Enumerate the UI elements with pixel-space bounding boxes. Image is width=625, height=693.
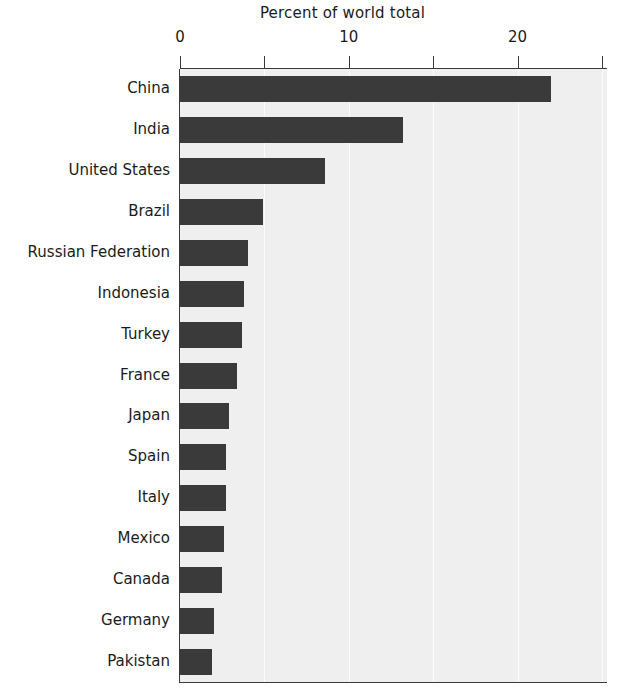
category-label-united-states: United States	[0, 161, 170, 179]
x-axis-tick-label-10: 10	[339, 28, 358, 46]
bar-united-states	[180, 158, 325, 184]
category-label-mexico: Mexico	[0, 529, 170, 547]
bar-spain	[180, 444, 226, 470]
bar-japan	[180, 403, 229, 429]
gridline-25	[602, 69, 603, 682]
gridline-10	[349, 69, 350, 682]
category-label-turkey: Turkey	[0, 325, 170, 343]
category-label-india: India	[0, 120, 170, 138]
bar-mexico	[180, 526, 224, 552]
x-axis-tick-0	[180, 56, 181, 68]
category-label-pakistan: Pakistan	[0, 652, 170, 670]
gridline-15	[433, 69, 434, 682]
bar-india	[180, 117, 403, 143]
bar-russian-federation	[180, 240, 248, 266]
bar-turkey	[180, 322, 242, 348]
bar-chart: Percent of world total 01020 ChinaIndiaU…	[0, 0, 625, 693]
x-axis-tick-label-20: 20	[508, 28, 527, 46]
bar-pakistan	[180, 649, 212, 675]
bar-italy	[180, 485, 226, 511]
x-axis-tick-10	[349, 56, 350, 68]
gridline-20	[518, 69, 519, 682]
category-label-canada: Canada	[0, 570, 170, 588]
bar-brazil	[180, 199, 263, 225]
bar-germany	[180, 608, 214, 634]
category-label-germany: Germany	[0, 611, 170, 629]
plot-bottom-border	[179, 682, 607, 683]
category-label-china: China	[0, 79, 170, 97]
bar-indonesia	[180, 281, 244, 307]
x-axis-tick-15	[433, 56, 434, 68]
x-axis-tick-25	[602, 56, 603, 68]
x-axis-tick-label-0: 0	[175, 28, 185, 46]
category-label-indonesia: Indonesia	[0, 284, 170, 302]
category-label-italy: Italy	[0, 488, 170, 506]
chart-title: Percent of world total	[0, 4, 625, 22]
bar-france	[180, 363, 237, 389]
category-label-brazil: Brazil	[0, 202, 170, 220]
bar-china	[180, 76, 551, 102]
bar-canada	[180, 567, 222, 593]
x-axis-tick-labels: 01020	[0, 28, 625, 48]
x-axis-tick-5	[264, 56, 265, 68]
category-label-japan: Japan	[0, 406, 170, 424]
x-axis-tick-20	[518, 56, 519, 68]
category-label-spain: Spain	[0, 447, 170, 465]
category-label-russian-federation: Russian Federation	[0, 243, 170, 261]
category-label-france: France	[0, 366, 170, 384]
